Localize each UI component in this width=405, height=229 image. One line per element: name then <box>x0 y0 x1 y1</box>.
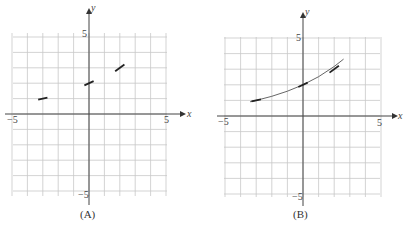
graph-a-y-axis-label: y <box>91 2 95 13</box>
slope-segment <box>38 98 47 100</box>
slope-segment <box>252 99 261 101</box>
graph-b-xmax-label: 5 <box>377 117 382 128</box>
graphs-canvas <box>0 0 405 229</box>
graph-a-ymax-label: 5 <box>82 28 87 39</box>
graph-a-xmin-label: −5 <box>7 114 18 125</box>
graph-a-ymin-label: −5 <box>78 189 89 200</box>
graph-b-caption: (B) <box>293 208 308 220</box>
x-axis-arrow-icon <box>180 111 186 117</box>
graph-a-xmax-label: 5 <box>164 114 169 125</box>
graph-a <box>5 8 186 205</box>
graph-b <box>217 12 398 206</box>
exponential-curve <box>250 59 344 102</box>
graph-b-ymax-label: 5 <box>296 32 301 43</box>
graph-b-x-axis-label: x <box>398 110 402 121</box>
graph-b-xmin-label: −5 <box>218 116 229 127</box>
graph-a-caption: (A) <box>80 208 95 220</box>
graph-b-ymin-label: −5 <box>292 191 303 202</box>
graph-b-y-axis-label: y <box>305 6 309 17</box>
graph-a-x-axis-label: x <box>187 108 191 119</box>
